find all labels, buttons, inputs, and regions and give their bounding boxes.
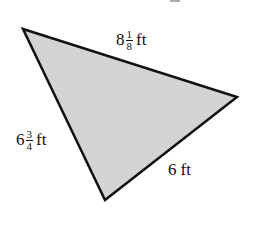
left-side-fraction: 3 4: [26, 129, 34, 152]
top-side-fraction: 1 8: [126, 29, 134, 52]
bottom-right-side-length-label: 6 ft: [168, 161, 191, 178]
left-side-denominator: 4: [26, 141, 34, 152]
left-side-length-label: 6 3 4 ft: [16, 128, 46, 151]
bottom-right-side-unit: ft: [181, 161, 191, 178]
left-side-unit: ft: [36, 131, 46, 148]
top-side-unit: ft: [136, 31, 146, 48]
top-side-whole: 8: [116, 31, 125, 48]
top-side-denominator: 8: [126, 41, 134, 52]
triangle-shape: [23, 29, 237, 200]
top-side-length-label: 8 1 8 ft: [116, 28, 146, 51]
left-side-whole: 6: [16, 131, 25, 148]
bottom-right-side-whole: 6: [168, 161, 177, 178]
